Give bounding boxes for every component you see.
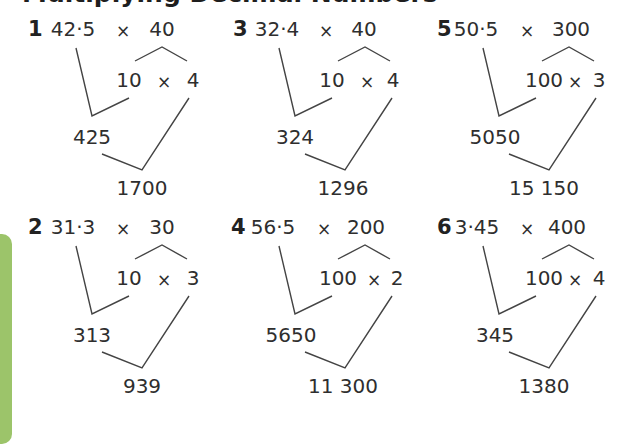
problem-5: 5 50·5 × 300 100 × 3 5050 15 150 (407, 0, 607, 200)
split-factor-a: 10 (116, 268, 141, 288)
times-sign: × (116, 23, 130, 40)
intermediate-product: 313 (73, 325, 111, 345)
split-times-sign: × (157, 272, 171, 289)
split-factor-a: 10 (319, 70, 344, 90)
problem-1: 1 42·5 × 40 10 × 4 425 1700 (0, 0, 200, 200)
right-operand: 400 (548, 217, 586, 237)
intermediate-product: 425 (73, 127, 111, 147)
right-operand: 30 (149, 217, 174, 237)
split-factor-b: 3 (593, 70, 606, 90)
split-factor-a: 10 (116, 70, 141, 90)
right-operand: 200 (347, 217, 385, 237)
left-operand: 50·5 (454, 19, 499, 39)
problem-number: 1 (28, 19, 43, 40)
final-product: 1700 (117, 178, 168, 198)
split-factor-b: 4 (387, 70, 400, 90)
intermediate-product: 324 (276, 127, 314, 147)
problem-number: 2 (28, 217, 43, 238)
left-operand: 32·4 (255, 19, 300, 39)
split-factor-b: 4 (593, 268, 606, 288)
times-sign: × (520, 23, 534, 40)
left-operand: 56·5 (251, 217, 296, 237)
split-factor-b: 4 (187, 70, 200, 90)
split-times-sign: × (568, 272, 582, 289)
problem-2: 2 31·3 × 30 10 × 3 313 939 (0, 198, 200, 398)
final-product: 1296 (318, 178, 369, 198)
split-times-sign: × (367, 272, 381, 289)
right-operand: 40 (351, 19, 376, 39)
split-factor-b: 2 (391, 268, 404, 288)
split-times-sign: × (360, 74, 374, 91)
times-sign: × (116, 221, 130, 238)
final-product: 1380 (519, 376, 570, 396)
right-operand: 300 (552, 19, 590, 39)
intermediate-product: 5050 (470, 127, 521, 147)
intermediate-product: 345 (476, 325, 514, 345)
split-factor-a: 100 (319, 268, 357, 288)
split-times-sign: × (568, 74, 582, 91)
split-factor-a: 100 (525, 268, 563, 288)
final-product: 11 300 (308, 376, 378, 396)
problem-6: 6 3·45 × 400 100 × 4 345 1380 (407, 198, 607, 398)
left-operand: 31·3 (51, 217, 96, 237)
problem-number: 3 (233, 19, 248, 40)
times-sign: × (319, 23, 333, 40)
times-sign: × (317, 221, 331, 238)
left-operand: 42·5 (51, 19, 96, 39)
right-operand: 40 (149, 19, 174, 39)
problem-number: 6 (437, 217, 452, 238)
split-factor-b: 3 (187, 268, 200, 288)
problem-4: 4 56·5 × 200 100 × 2 5650 11 300 (203, 198, 403, 398)
split-times-sign: × (157, 74, 171, 91)
problem-number: 4 (231, 217, 246, 238)
intermediate-product: 5650 (266, 325, 317, 345)
problem-3: 3 32·4 × 40 10 × 4 324 1296 (203, 0, 403, 200)
split-factor-a: 100 (525, 70, 563, 90)
left-operand: 3·45 (455, 217, 500, 237)
times-sign: × (520, 221, 534, 238)
final-product: 15 150 (509, 178, 579, 198)
problem-number: 5 (437, 19, 452, 40)
final-product: 939 (123, 376, 161, 396)
